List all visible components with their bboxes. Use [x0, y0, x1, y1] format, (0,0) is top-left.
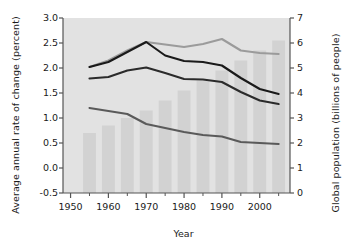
bar — [83, 133, 96, 193]
y-tick-label-left: 0.0 — [18, 162, 58, 173]
bar — [121, 118, 134, 193]
x-tick-label: 1990 — [202, 201, 242, 212]
bar — [102, 126, 115, 194]
y-tick-label-right: 3 — [297, 112, 317, 123]
x-tick-label: 1960 — [88, 201, 128, 212]
bar — [197, 81, 210, 194]
y-tick-label-right: 7 — [297, 12, 317, 23]
y-tick-label-right: 5 — [297, 62, 317, 73]
y-tick-label-left: 2.0 — [18, 62, 58, 73]
chart-figure: Average annual rate of change (percent) … — [0, 0, 349, 246]
x-tick-label: 2000 — [240, 201, 280, 212]
bar — [215, 71, 228, 194]
bar — [272, 41, 285, 194]
y-tick-label-right: 6 — [297, 37, 317, 48]
y-tick-label-right: 0 — [297, 187, 317, 198]
y-tick-label-left: 1.0 — [18, 112, 58, 123]
bar — [159, 101, 172, 194]
y-tick-label-left: 1.5 — [18, 87, 58, 98]
y-tick-label-right: 1 — [297, 162, 317, 173]
y-tick-label-left: 3.0 — [18, 12, 58, 23]
bar — [253, 51, 266, 194]
y-tick-label-left: 2.5 — [18, 37, 58, 48]
y-tick-label-left: -0.5 — [18, 187, 58, 198]
y-tick-label-left: 0.5 — [18, 137, 58, 148]
x-tick-label: 1970 — [126, 201, 166, 212]
x-tick-label: 1980 — [164, 201, 204, 212]
x-tick-label: 1950 — [51, 201, 91, 212]
y-tick-label-right: 2 — [297, 137, 317, 148]
bar — [178, 91, 191, 194]
y-tick-label-right: 4 — [297, 87, 317, 98]
